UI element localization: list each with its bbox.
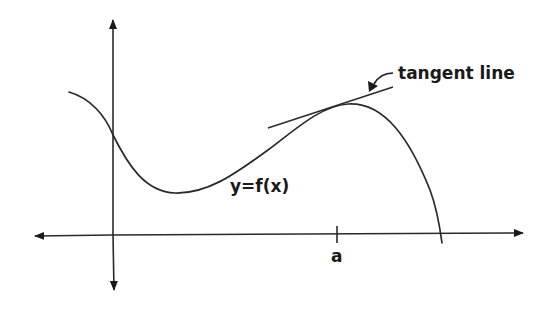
x-axis-left-arrow-icon — [35, 235, 113, 236]
y-axis — [113, 20, 114, 290]
function-curve — [69, 92, 442, 243]
y-axis-down-arrow-icon — [113, 235, 114, 290]
x-axis-right-arrow-icon — [113, 233, 523, 235]
tangent-pointer-arrowhead-icon — [368, 81, 378, 92]
diagram-canvas: tangent line y=f(x) a — [0, 0, 553, 309]
tangent-label: tangent line — [398, 63, 515, 83]
point-a-label: a — [331, 246, 342, 266]
tangent-line — [268, 87, 393, 128]
tangent-pointer-arrow-icon — [374, 73, 393, 84]
curve-label: y=f(x) — [230, 176, 289, 196]
x-axis — [35, 233, 523, 236]
